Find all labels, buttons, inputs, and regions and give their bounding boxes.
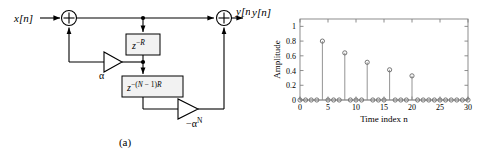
chart-layer: 05101520253000.20.40.60.81Time index nAm… (272, 19, 472, 124)
y-tick-label: 0.4 (286, 67, 296, 76)
plot-frame (300, 19, 468, 100)
x-tick-label: 0 (298, 103, 302, 112)
subfigure-caption-a: (a) (0, 136, 250, 148)
x-tick-label: 30 (464, 103, 472, 112)
x-axis-label: Time index n (360, 114, 408, 124)
panel-block-diagram: x[n] y[n] z−R (0, 0, 250, 158)
y-tick-label: 0 (292, 96, 296, 105)
block-diagram-svg: x[n] y[n] z−R (0, 0, 250, 135)
y-tick-label: 0.8 (286, 37, 296, 46)
input-signal-label: x[n] (13, 12, 33, 24)
gain-neg-alpha-n-triangle (178, 99, 198, 119)
x-tick-label: 10 (352, 103, 360, 112)
y-tick-label: 0.6 (286, 52, 296, 61)
gain-alpha-triangle (104, 52, 122, 72)
x-tick-label: 20 (408, 103, 416, 112)
y-axis-label: Amplitude (272, 40, 282, 79)
y-tick-label: 0.2 (286, 81, 296, 90)
y-tick-label: 1 (292, 22, 296, 31)
x-tick-label: 5 (326, 103, 330, 112)
gain-neg-alpha-n-label: −αN (186, 116, 203, 129)
output-signal-label: y[n] (235, 5, 250, 17)
panel-b-output-label: y[n] (251, 6, 271, 18)
gain-alpha-label: α (99, 70, 105, 81)
figure-root: x[n] y[n] z−R (0, 0, 492, 158)
x-tick-label: 25 (436, 103, 444, 112)
panel-stem-plot: y[n] 05101520253000.20.40.60.81Time inde… (250, 0, 492, 158)
stem-plot-svg: y[n] 05101520253000.20.40.60.81Time inde… (250, 0, 492, 135)
x-tick-label: 15 (380, 103, 388, 112)
